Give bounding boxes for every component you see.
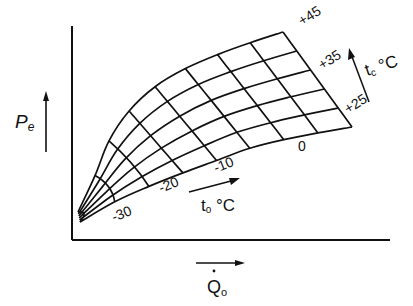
- y-axis-label-group: Pe: [15, 91, 49, 152]
- to-line-label: -10: [211, 153, 236, 175]
- tc-curve-label: +35: [315, 46, 344, 72]
- tc-curve-label: +45: [295, 2, 324, 28]
- x-arrowhead-icon: [235, 260, 245, 266]
- to-line-label: -20: [156, 173, 181, 195]
- to-label: to °C: [201, 196, 235, 215]
- x-axis-label-group: Qo: [196, 260, 245, 298]
- to-line: [129, 111, 183, 173]
- to-line: [95, 176, 115, 202]
- x-axis-label: Qo: [207, 277, 227, 298]
- performance-diagram: Pe Qo tc °C to °C +45+35+25 -30-20-100: [0, 0, 413, 306]
- to-line-label: 0: [298, 138, 306, 154]
- y-arrowhead-icon: [43, 91, 49, 101]
- tc-curve: [78, 32, 283, 212]
- tc-label: tc °C: [362, 51, 400, 79]
- y-axis-label: Pe: [15, 111, 35, 134]
- tc-arrowhead-icon: [348, 48, 355, 60]
- performance-grid: [78, 32, 352, 222]
- to-line: [218, 55, 284, 140]
- x-axis-label-dot: [213, 270, 216, 273]
- to-line-label: -30: [109, 202, 134, 224]
- to-arrowhead-icon: [229, 178, 240, 185]
- to-arrow-icon: [189, 181, 231, 192]
- to-line: [109, 141, 149, 187]
- to-legend: to °C: [189, 178, 240, 215]
